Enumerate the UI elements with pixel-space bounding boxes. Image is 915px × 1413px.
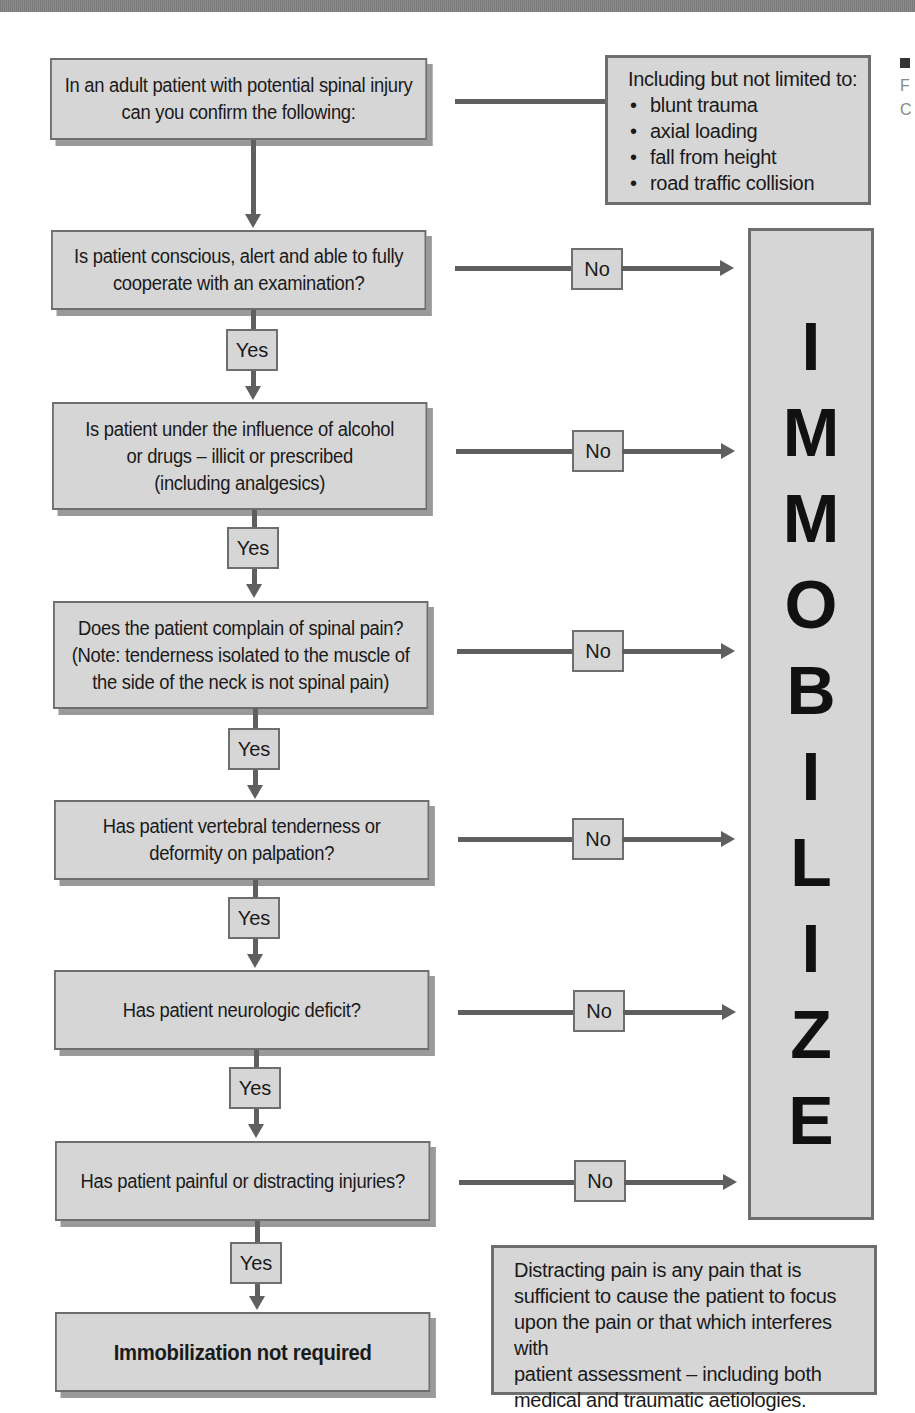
immobilize-letter: M: [783, 389, 840, 475]
immobilize-letter: E: [788, 1077, 833, 1163]
arrow-down-icon: [245, 386, 261, 400]
connector-yes: [251, 371, 256, 387]
outcome-not-required-text: Immobilization not required: [114, 1339, 372, 1366]
connector-yes: [255, 1221, 260, 1243]
connector-yes: [253, 939, 258, 955]
page-header-bar: [0, 0, 915, 12]
arrow-down-icon: [245, 214, 261, 228]
arrow-down-icon: [246, 584, 262, 598]
question-line: Is patient under the influence of alcoho…: [85, 416, 394, 443]
start-line-2: can you confirm the following:: [65, 99, 413, 126]
outcome-not-required-box: Immobilization not required: [55, 1312, 430, 1392]
no-label: No: [572, 430, 624, 472]
yes-label: Yes: [229, 1067, 281, 1109]
mechanism-item: axial loading: [628, 118, 858, 144]
no-label: No: [574, 1160, 626, 1202]
caption-fragment-line: F: [900, 74, 915, 98]
immobilize-letter: I: [802, 303, 821, 389]
yes-label: Yes: [228, 728, 280, 770]
connector-no: [455, 266, 573, 271]
question-line: Has patient neurologic deficit?: [123, 997, 361, 1024]
immobilize-letter: I: [802, 905, 821, 991]
question-box-intoxication: Is patient under the influence of alcoho…: [52, 402, 427, 510]
immobilize-box: I M M O B I L I Z E: [748, 228, 874, 1220]
cropped-caption-fragment: F C: [900, 58, 915, 122]
yes-label: Yes: [230, 1242, 282, 1284]
question-line: Has patient painful or distracting injur…: [81, 1168, 405, 1195]
question-line: deformity on palpation?: [103, 840, 381, 867]
arrow-down-icon: [247, 954, 263, 968]
connector-yes: [251, 310, 256, 330]
arrow-right-icon: [720, 260, 734, 276]
connector-yes: [253, 709, 258, 729]
note-line: medical and traumatic aetiologies.: [514, 1387, 866, 1413]
question-box-neurologic-deficit: Has patient neurologic deficit?: [54, 970, 429, 1050]
question-line: the side of the neck is not spinal pain): [72, 669, 410, 696]
question-line: cooperate with an examination?: [74, 270, 403, 297]
start-box: In an adult patient with potential spina…: [50, 58, 427, 140]
arrow-down-icon: [248, 1124, 264, 1138]
note-line: sufficient to cause the patient to focus: [514, 1283, 866, 1309]
no-label: No: [572, 818, 624, 860]
yes-label: Yes: [227, 527, 279, 569]
connector-no: [458, 1010, 576, 1015]
yes-label: Yes: [228, 897, 280, 939]
connector-yes: [253, 770, 258, 786]
no-label: No: [571, 248, 623, 290]
question-box-vertebral-tenderness: Has patient vertebral tenderness or defo…: [54, 800, 429, 880]
question-box-distracting-injuries: Has patient painful or distracting injur…: [55, 1141, 430, 1221]
connector-yes: [252, 510, 257, 528]
question-line: Has patient vertebral tenderness or: [103, 813, 381, 840]
mechanism-item: road traffic collision: [628, 170, 858, 196]
connector-no: [459, 1180, 577, 1185]
connector-no: [622, 649, 722, 654]
mechanisms-title: Including but not limited to:: [628, 66, 858, 92]
connector-no: [457, 649, 575, 654]
distracting-pain-note: Distracting pain is any pain that is suf…: [491, 1245, 877, 1395]
mechanism-item: fall from height: [628, 144, 858, 170]
connector-yes: [254, 1050, 259, 1068]
question-line: Is patient conscious, alert and able to …: [74, 243, 403, 270]
no-label: No: [572, 630, 624, 672]
connector-yes: [253, 880, 258, 898]
question-box-spinal-pain: Does the patient complain of spinal pain…: [53, 601, 428, 709]
arrow-down-icon: [249, 1296, 265, 1310]
immobilize-letter: Z: [790, 991, 832, 1077]
connector-no: [623, 1010, 723, 1015]
question-line: Does the patient complain of spinal pain…: [72, 615, 410, 642]
question-box-consciousness: Is patient conscious, alert and able to …: [51, 230, 426, 310]
note-line: Distracting pain is any pain that is: [514, 1257, 866, 1283]
question-line: (including analgesics): [85, 470, 394, 497]
immobilize-letter: O: [785, 561, 838, 647]
immobilize-letter: L: [790, 819, 832, 905]
yes-label: Yes: [226, 329, 278, 371]
arrow-right-icon: [721, 643, 735, 659]
immobilize-letter: M: [783, 475, 840, 561]
arrow-right-icon: [721, 831, 735, 847]
connector-start-to-q1: [251, 140, 256, 216]
connector-no: [621, 266, 721, 271]
arrow-right-icon: [721, 443, 735, 459]
question-line: or drugs – illicit or prescribed: [85, 443, 394, 470]
connector-yes: [252, 569, 257, 585]
connector-no: [622, 837, 722, 842]
connector-start-to-note: [455, 99, 607, 104]
connector-no: [458, 837, 574, 842]
immobilize-letter: I: [802, 733, 821, 819]
start-line-1: In an adult patient with potential spina…: [65, 72, 413, 99]
question-line: (Note: tenderness isolated to the muscle…: [72, 642, 410, 669]
arrow-down-icon: [247, 785, 263, 799]
note-line: patient assessment – including both: [514, 1361, 866, 1387]
caption-marker: [900, 58, 910, 68]
note-line: upon the pain or that which interferes w…: [514, 1309, 866, 1361]
immobilize-letter: B: [786, 647, 835, 733]
mechanism-item: blunt trauma: [628, 92, 858, 118]
mechanisms-note: Including but not limited to: blunt trau…: [605, 55, 871, 205]
connector-no: [624, 1180, 724, 1185]
connector-no: [622, 449, 722, 454]
connector-no: [456, 449, 574, 454]
no-label: No: [573, 990, 625, 1032]
caption-fragment-line: C: [900, 98, 915, 122]
arrow-right-icon: [723, 1174, 737, 1190]
connector-yes: [254, 1109, 259, 1125]
